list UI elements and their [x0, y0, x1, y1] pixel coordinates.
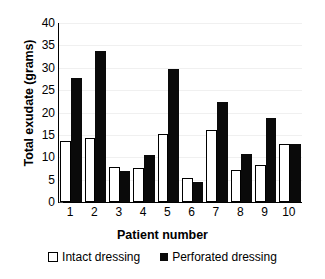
chart-legend: Intact dressingPerforated dressing [0, 250, 325, 264]
x-tick-label: 2 [82, 206, 106, 218]
y-tick-label: 10 [33, 151, 55, 163]
bar-perforated [193, 182, 204, 202]
bar-intact [60, 141, 71, 202]
x-axis-ticks: 12345678910 [58, 206, 301, 218]
legend-item: Intact dressing [48, 250, 140, 264]
legend-item-label: Perforated dressing [172, 250, 277, 264]
bar-perforated [120, 171, 131, 202]
bar-series-container [59, 23, 302, 202]
bar-group [229, 23, 253, 202]
bar-intact [109, 167, 120, 202]
bar-perforated [241, 154, 252, 202]
x-axis-title: Patient number [0, 228, 325, 242]
y-tick-label: 0 [33, 196, 55, 208]
bar-perforated [95, 51, 106, 202]
x-tick-label: 4 [131, 206, 155, 218]
bar-perforated [144, 155, 155, 202]
x-tick-label: 6 [179, 206, 203, 218]
bar-intact [206, 130, 217, 202]
y-tick-label: 35 [33, 39, 55, 51]
y-tick-mark [59, 202, 63, 203]
bar-group [108, 23, 132, 202]
x-tick-label: 7 [204, 206, 228, 218]
bar-perforated [266, 118, 277, 202]
bar-intact [279, 144, 290, 202]
x-tick-label: 3 [107, 206, 131, 218]
bar-intact [158, 134, 169, 202]
bar-intact [255, 165, 266, 202]
bar-group [83, 23, 107, 202]
bar-intact [182, 178, 193, 202]
bar-group [253, 23, 277, 202]
x-tick-label: 10 [277, 206, 301, 218]
bar-group [156, 23, 180, 202]
bar-perforated [290, 144, 301, 202]
legend-item: Perforated dressing [160, 250, 277, 264]
bar-perforated [168, 69, 179, 202]
x-tick-label: 1 [58, 206, 82, 218]
bar-perforated [217, 102, 228, 202]
filled-square-marker [160, 253, 168, 261]
x-tick-label: 8 [228, 206, 252, 218]
y-tick-label: 25 [33, 84, 55, 96]
open-square-marker [48, 252, 58, 262]
y-tick-label: 15 [33, 129, 55, 141]
bar-group [180, 23, 204, 202]
y-axis-title: Total exudate (grams) [22, 8, 36, 198]
bar-group [132, 23, 156, 202]
bar-intact [231, 170, 242, 202]
y-tick-label: 20 [33, 107, 55, 119]
bar-intact [133, 168, 144, 202]
bar-perforated [71, 78, 82, 202]
plot-area: 0510152025303540 [58, 23, 302, 203]
y-tick-label: 30 [33, 62, 55, 74]
y-tick-label: 5 [33, 174, 55, 186]
legend-item-label: Intact dressing [62, 250, 140, 264]
y-tick-label: 40 [33, 17, 55, 29]
bar-chart-figure: Total exudate (grams) 0510152025303540 1… [0, 0, 325, 279]
x-tick-label: 5 [155, 206, 179, 218]
bar-group [278, 23, 302, 202]
bar-intact [85, 138, 96, 202]
x-tick-label: 9 [252, 206, 276, 218]
bar-group [59, 23, 83, 202]
bar-group [205, 23, 229, 202]
